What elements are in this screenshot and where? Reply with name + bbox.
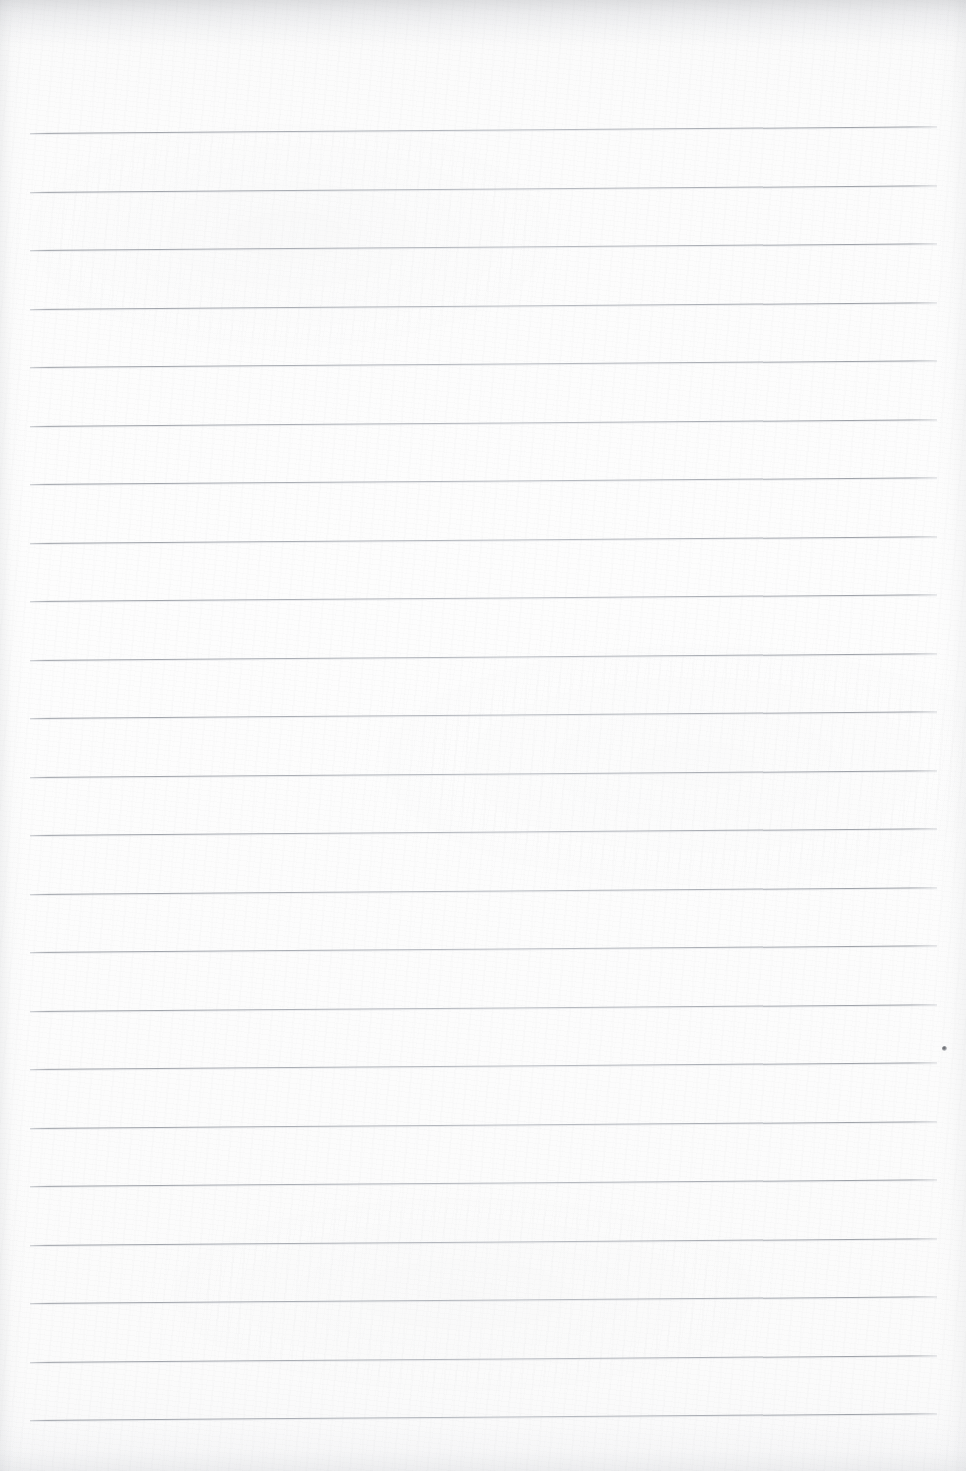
ink-speck xyxy=(942,1046,947,1051)
ruled-line xyxy=(30,1004,937,1012)
ruled-line xyxy=(30,887,937,895)
ruled-line xyxy=(30,1062,937,1070)
ruled-lines-group xyxy=(0,0,966,1471)
ruled-line xyxy=(30,477,937,485)
ruled-line xyxy=(30,1296,937,1304)
ruled-line xyxy=(30,185,937,193)
ruled-line xyxy=(30,770,937,778)
ruled-line xyxy=(30,828,937,836)
ruled-line xyxy=(30,594,937,602)
ruled-line xyxy=(30,419,937,427)
ruled-line xyxy=(30,536,937,544)
ruled-line xyxy=(30,945,937,953)
ruled-line xyxy=(30,1121,937,1129)
ruled-line xyxy=(30,1238,937,1246)
ruled-line xyxy=(30,1179,937,1187)
ruled-line xyxy=(30,126,937,134)
ruled-line xyxy=(30,243,937,251)
ruled-line xyxy=(30,711,937,719)
ruled-line xyxy=(30,1413,937,1421)
scanned-page xyxy=(0,0,966,1471)
ruled-line xyxy=(30,302,937,310)
ruled-line xyxy=(30,1355,937,1363)
ruled-line xyxy=(30,653,937,661)
ruled-line xyxy=(30,360,937,368)
